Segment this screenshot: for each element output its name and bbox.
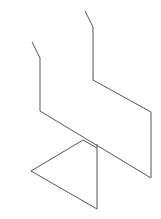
drawing-canvas: [0, 0, 161, 219]
chair-back-and-seat-outline: [32, 11, 151, 178]
chair-leg-triangle: [31, 140, 97, 209]
chair-line-drawing: [0, 0, 161, 219]
